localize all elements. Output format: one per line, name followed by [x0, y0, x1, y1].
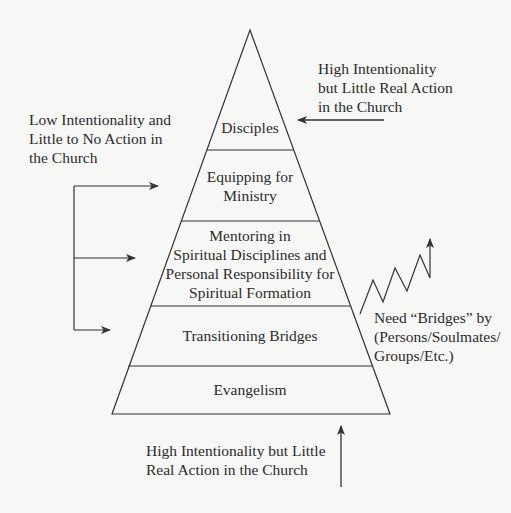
level-transitioning: Transitioning Bridges	[182, 326, 317, 345]
level-evangelism: Evangelism	[213, 380, 286, 399]
zigzag-arrow-icon	[360, 239, 430, 314]
level-label: Transitioning Bridges	[182, 326, 317, 345]
level-equipping: Equipping for Ministry	[207, 167, 294, 205]
pyramid-diagram: Disciples Equipping for Ministry Mentori…	[0, 0, 511, 513]
level-label: Ministry	[207, 186, 294, 205]
level-label: Spiritual Formation	[166, 283, 335, 302]
annotation-right: Need “Bridges” by (Persons/Soulmates/ Gr…	[374, 308, 501, 365]
annotation-bottom: High Intentionality but Little Real Acti…	[146, 441, 326, 479]
annotation-top-right: High Intentionality but Little Real Acti…	[318, 59, 453, 116]
level-label: Mentoring in	[166, 226, 335, 245]
level-label: Disciples	[221, 118, 279, 137]
level-label: Evangelism	[213, 380, 286, 399]
level-label: Spiritual Disciplines and	[166, 245, 335, 264]
level-label: Personal Responsibility for	[166, 264, 335, 283]
level-disciples: Disciples	[221, 118, 279, 137]
annotation-left: Low Intentionality and Little to No Acti…	[29, 110, 171, 167]
bracket-arrows-icon	[74, 186, 158, 330]
level-label: Equipping for	[207, 167, 294, 186]
level-mentoring: Mentoring in Spiritual Disciplines and P…	[166, 226, 335, 302]
